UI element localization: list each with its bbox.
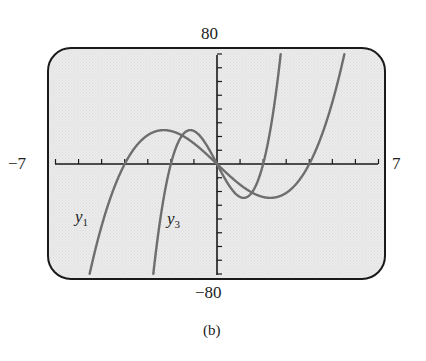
- ymin-label: −80: [195, 284, 222, 301]
- xmin-label: −7: [8, 155, 26, 172]
- plot-area: [0, 0, 426, 361]
- ymax-label: 80: [201, 25, 218, 42]
- calculator-graph-figure: 80 −80 −7 7 y1 y3 (b): [0, 0, 426, 361]
- figure-caption: (b): [203, 323, 221, 338]
- curve-label-y1: y1: [75, 208, 88, 228]
- xmax-label: 7: [392, 155, 401, 172]
- curve-label-y3: y3: [167, 210, 180, 230]
